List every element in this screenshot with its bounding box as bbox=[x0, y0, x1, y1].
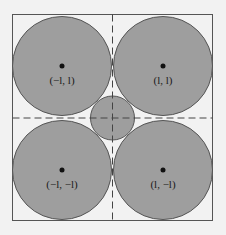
circles-in-square-diagram: (−l, l) (l, l) (−l, −l) (l, −l) bbox=[0, 0, 226, 235]
center-dot-top-right bbox=[161, 64, 166, 69]
center-dot-bottom-right bbox=[161, 168, 166, 173]
label-bottom-left: (−l, −l) bbox=[46, 178, 78, 191]
label-top-left: (−l, l) bbox=[49, 74, 74, 87]
center-dot-top-left bbox=[60, 64, 65, 69]
label-bottom-right: (l, −l) bbox=[150, 178, 175, 191]
center-dot-bottom-left bbox=[60, 168, 65, 173]
label-top-right: (l, l) bbox=[154, 74, 173, 87]
